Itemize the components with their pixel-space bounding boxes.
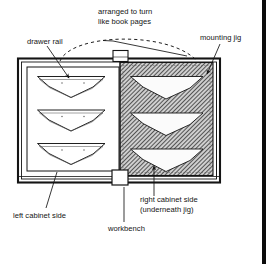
- top-note-line2: like book pages: [98, 17, 151, 26]
- diagram-canvas: arranged to turn like book pages drawer …: [0, 0, 275, 264]
- figure-root: arranged to turn like book pages drawer …: [0, 0, 275, 264]
- right-cabinet-side-line2: (underneath jig): [140, 205, 194, 214]
- left-cabinet-side-label: left cabinet side: [13, 211, 66, 220]
- mounting-jig-label: mounting jig: [200, 33, 241, 42]
- drawer-rail-label: drawer rail: [27, 37, 63, 46]
- page-edge-bar: [262, 0, 266, 264]
- workbench-label: workbench: [107, 224, 145, 233]
- left-panel-cabinet-side: [27, 67, 119, 171]
- hinge-bottom-block: [112, 170, 128, 185]
- right-panel-mounting-jig: [120, 63, 213, 176]
- hinge-top-block: [113, 51, 128, 62]
- top-note-line1: arranged to turn: [98, 7, 152, 16]
- right-cabinet-side-line1: right cabinet side: [140, 195, 198, 204]
